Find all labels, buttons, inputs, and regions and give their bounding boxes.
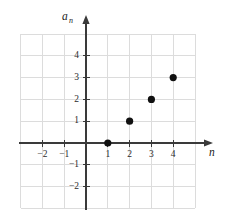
plot-canvas: −2−112344321−1−2 a n n (1, 0)(2, 1)(3, 2… [0, 0, 225, 222]
y-axis-label-subscript: n [69, 16, 73, 25]
x-axis-label: n [209, 146, 215, 158]
data-point: (4, 3) [170, 74, 177, 81]
y-tick-label: 4 [74, 50, 79, 60]
data-point: (2, 1) [126, 118, 133, 125]
y-axis-label: a [62, 10, 68, 22]
sequence-scatter-plot: −2−112344321−1−2 a n n (1, 0)(2, 1)(3, 2… [0, 0, 225, 222]
tick-labels: −2−112344321−1−2 [37, 50, 175, 191]
x-tick-label: 2 [127, 149, 132, 159]
y-tick-label: 3 [74, 72, 79, 82]
axes [19, 15, 213, 210]
x-tick-label: 4 [171, 149, 176, 159]
x-tick-label: 3 [149, 149, 154, 159]
y-tick-label: −2 [69, 181, 79, 191]
y-axis-arrowhead-icon [82, 15, 89, 24]
y-tick-label: 2 [74, 94, 79, 104]
y-tick-label: −1 [69, 159, 79, 169]
y-tick-label: 1 [74, 115, 79, 125]
x-tick-label: −1 [59, 149, 69, 159]
data-point: (3, 2) [148, 96, 155, 103]
data-point: (1, 0) [104, 139, 111, 146]
axis-labels: a n n [62, 10, 215, 158]
data-points: (1, 0)(2, 1)(3, 2)(4, 3) [104, 74, 177, 147]
x-tick-label: 1 [105, 149, 110, 159]
x-tick-label: −2 [37, 149, 47, 159]
grid-lines [21, 34, 195, 208]
